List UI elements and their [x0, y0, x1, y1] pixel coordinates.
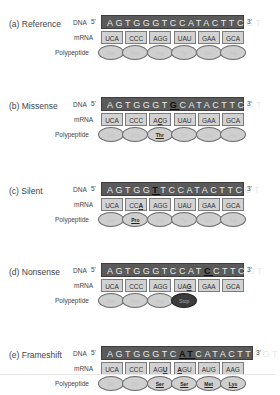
codon-box: UCA	[101, 31, 123, 44]
mrna-codons: UCACCCAGGUAGGAAGCA	[101, 279, 246, 292]
codon-box: UAU	[174, 198, 196, 211]
mrna-label: mRNA	[74, 34, 93, 41]
three-prime-label: 3'	[247, 18, 252, 25]
codon-box: CCA	[125, 198, 147, 211]
amino-acid-oval: Ser	[98, 293, 124, 308]
codon-box: AGG	[149, 279, 171, 292]
codon-box: UCA	[101, 113, 123, 126]
dna-mutation: G	[170, 100, 180, 110]
amino-acid-oval: Ser	[171, 376, 197, 391]
five-prime-label: 5'	[91, 185, 96, 192]
amino-acid-oval: Lys	[220, 376, 246, 391]
polypeptide-label: Polypeptide	[55, 297, 89, 304]
mrna-label: mRNA	[74, 365, 93, 372]
codon-mutated-base: A	[139, 202, 144, 209]
codon-box: CCC	[125, 113, 147, 126]
mrna-codons: UCACCCAGGUAUGAAGCA	[101, 31, 246, 44]
mutation-panel: (c) SilentDNA5'AGTGGTTCCATACTTCGT3'mRNAU…	[0, 181, 275, 241]
codon-box: GCA	[222, 279, 244, 292]
amino-acid-oval: Ser	[98, 212, 124, 227]
dna-seq-after: CTTCGT	[213, 266, 265, 276]
amino-acid-oval: Tyr	[171, 45, 197, 60]
codon-box: GAA	[198, 113, 220, 126]
codon-box: GCA	[222, 31, 244, 44]
dna-seq-before: AGTGGGT	[107, 100, 170, 110]
polypeptide-chain: SerProArgStop	[98, 293, 196, 308]
codon-mutated-base: U	[163, 366, 168, 373]
polypeptide-label: Polypeptide	[55, 216, 89, 223]
amino-acid-oval: Met	[196, 376, 222, 391]
codon-mutated-base: G	[187, 283, 192, 290]
dna-label: DNA	[73, 267, 87, 274]
three-prime-label: 3'	[247, 266, 252, 273]
codon-box: UAU	[174, 31, 196, 44]
mutation-panel: (d) NonsenseDNA5'AGTGGGTCCATCCTTCGT3'mRN…	[0, 262, 275, 322]
polypeptide-label: Polypeptide	[55, 49, 89, 56]
amino-acid-oval: Pro	[122, 293, 148, 308]
five-prime-label: 5'	[91, 100, 96, 107]
amino-acid-oval: Thr	[147, 127, 173, 142]
codon-box: ACG	[149, 113, 171, 126]
mutation-panel: (e) FrameshiftDNA5'AGTGGGTCATCATACTTCGT3…	[0, 345, 275, 395]
amino-acid-oval: Pro	[122, 212, 148, 227]
polypeptide-chain: SerProThrTyrGluAla	[98, 127, 244, 142]
five-prime-label: 5'	[91, 349, 96, 356]
divider-line	[0, 374, 275, 375]
amino-acid-oval: Ala	[220, 127, 246, 142]
amino-acid-oval: Ser	[98, 127, 124, 142]
dna-seq-before: AGTGG	[107, 185, 152, 195]
dna-strand: AGTGGGTCATCATACTTCGT	[101, 346, 253, 360]
mrna-label: mRNA	[74, 116, 93, 123]
dna-seq-before: AGTGGGTCCAT	[107, 266, 204, 276]
amino-acid-oval: Ser	[98, 376, 124, 391]
amino-acid-oval: Tyr	[171, 127, 197, 142]
polypeptide-chain: SerProArgTyrGluAla	[98, 212, 244, 227]
amino-acid-oval: Ala	[220, 212, 246, 227]
codon-box: UCA	[101, 198, 123, 211]
panel-title: (d) Nonsense	[9, 267, 60, 277]
mrna-codons: UCACCCACGUAUGAAGCA	[101, 113, 246, 126]
five-prime-label: 5'	[91, 18, 96, 25]
codon-box: UAU	[174, 113, 196, 126]
dna-mutation: AT	[179, 349, 195, 359]
codon-box: AGG	[149, 31, 171, 44]
codon-box: GAA	[198, 198, 220, 211]
amino-acid-oval: Arg	[147, 45, 173, 60]
dna-seq-before: AGTGGGTCCATACTTCGT	[107, 18, 264, 28]
mrna-label: mRNA	[74, 282, 93, 289]
dna-label: DNA	[73, 350, 87, 357]
codon-box: AGG	[149, 198, 171, 211]
dna-seq-before: AGTGGGTC	[107, 349, 179, 359]
amino-acid-oval: Glu	[196, 212, 222, 227]
codon-box: UAG	[174, 279, 196, 292]
three-prime-label: 3'	[256, 349, 261, 356]
polypeptide-chain: SerProSerSerMetLys	[98, 376, 244, 391]
panel-title: (c) Silent	[9, 186, 43, 196]
amino-acid-oval: Glu	[196, 127, 222, 142]
amino-acid-oval: Pro	[122, 376, 148, 391]
three-prime-label: 3'	[247, 100, 252, 107]
dna-seq-after: CATACTTCGT	[195, 349, 280, 359]
amino-acid-oval: Glu	[196, 45, 222, 60]
three-prime-label: 3'	[247, 185, 252, 192]
panel-title: (a) Reference	[9, 19, 61, 29]
polypeptide-chain: SerProArgTyrGluAla	[98, 45, 244, 60]
mrna-label: mRNA	[74, 201, 93, 208]
mutation-panel: (b) MissenseDNA5'AGTGGGTGCATACTTCGT3'mRN…	[0, 96, 275, 156]
dna-mutation: C	[204, 266, 213, 276]
dna-strand: AGTGGGTCCATCCTTCGT	[101, 263, 244, 277]
codon-box: GCA	[222, 198, 244, 211]
dna-strand: AGTGGTTCCATACTTCGT	[101, 182, 244, 196]
amino-acid-oval: Arg	[147, 212, 173, 227]
amino-acid-oval: Ala	[220, 45, 246, 60]
five-prime-label: 5'	[91, 266, 96, 273]
codon-box: CCC	[125, 31, 147, 44]
stop-codon-oval: Stop	[171, 293, 197, 308]
dna-strand: AGTGGGTCCATACTTCGT	[101, 15, 244, 29]
amino-acid-oval: Ser	[98, 45, 124, 60]
panel-title: (b) Missense	[9, 101, 58, 111]
amino-acid-oval: Tyr	[171, 212, 197, 227]
amino-acid-oval: Pro	[122, 45, 148, 60]
mutation-panel: (a) ReferenceDNA5'AGTGGGTCCATACTTCGT3'mR…	[0, 14, 275, 74]
amino-acid-oval: Arg	[147, 293, 173, 308]
